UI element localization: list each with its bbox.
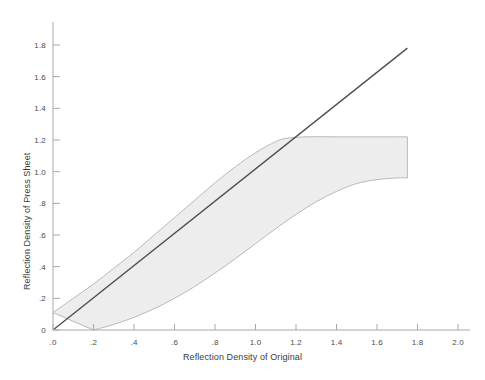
ideal-reproduction-reference-line <box>53 48 407 330</box>
x-tick-label: .6 <box>171 338 178 347</box>
y-tick-label: 1.8 <box>34 41 46 50</box>
x-tick-label: .4 <box>130 338 137 347</box>
x-tick-label: .2 <box>90 338 97 347</box>
y-tick-label: .4 <box>39 262 46 271</box>
x-tick-label: 1.4 <box>331 338 343 347</box>
x-tick-label: 1.6 <box>371 338 383 347</box>
y-tick-label: 0 <box>41 326 46 335</box>
press-reproduction-band <box>53 137 407 330</box>
x-axis-title: Reflection Density of Original <box>0 352 485 362</box>
y-tick-label: 1.6 <box>34 72 46 81</box>
x-tick-label: 1.2 <box>290 338 302 347</box>
y-tick-label: .6 <box>39 231 46 240</box>
y-axis-title: Reflection Density of Press Sheet <box>22 153 32 290</box>
x-tick-label: 1.8 <box>412 338 424 347</box>
y-tick-label: 1.4 <box>34 104 46 113</box>
y-axis-ticks <box>53 45 60 330</box>
y-tick-label: 1.2 <box>34 136 46 145</box>
y-tick-label: .2 <box>39 294 46 303</box>
x-tick-label: .0 <box>49 338 56 347</box>
reflection-density-chart: .0.2.4.6.81.01.21.41.61.82.00.2.4.6.81.0… <box>0 0 485 380</box>
x-tick-label: 2.0 <box>452 338 464 347</box>
x-tick-label: 1.0 <box>250 338 262 347</box>
x-tick-label: .8 <box>211 338 218 347</box>
y-tick-label: 1.0 <box>34 167 46 176</box>
chart-plot-area <box>0 0 485 380</box>
y-tick-label: .8 <box>39 199 46 208</box>
